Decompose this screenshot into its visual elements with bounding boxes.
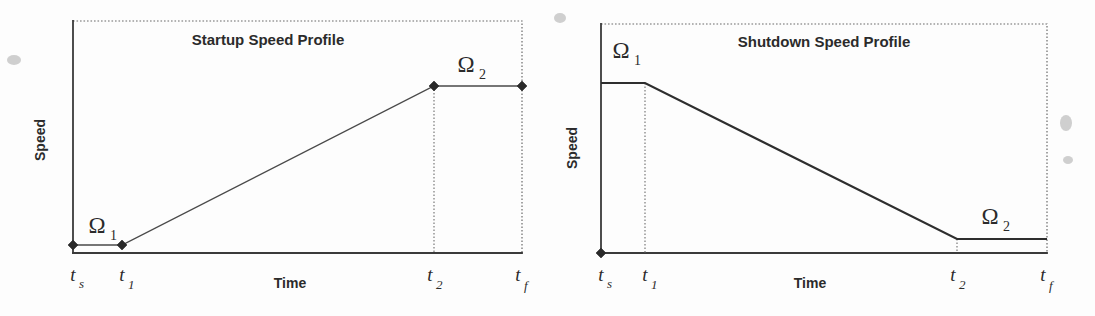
- scan-artifacts: [7, 13, 1073, 164]
- shutdown-omega1-base: Ω: [612, 38, 629, 63]
- startup-y-axis-label: Speed: [32, 119, 48, 161]
- shutdown-y-axis-label: Speed: [564, 127, 580, 169]
- shutdown-omega1-sub: 1: [634, 53, 641, 68]
- shutdown-omega2-base: Ω: [981, 204, 998, 229]
- shutdown-xtick-t2: t 2: [950, 264, 966, 292]
- startup-omega1-annotation: Ω 1: [88, 213, 117, 243]
- chart-startup: Startup Speed Profile Speed Time Ω 1 Ω 2…: [32, 21, 530, 293]
- speed-profile-figure: Startup Speed Profile Speed Time Ω 1 Ω 2…: [0, 0, 1095, 316]
- startup-xtick-t2-base: t: [427, 264, 433, 285]
- shutdown-profile-line: [601, 83, 1047, 239]
- shutdown-xtick-t1: t 1: [642, 264, 657, 292]
- shutdown-xtick-ts: t s: [598, 264, 612, 291]
- startup-xtick-tf-base: t: [515, 264, 521, 285]
- shutdown-x-axis-label: Time: [794, 275, 827, 291]
- startup-omega2-base: Ω: [457, 52, 474, 77]
- speed-profile-svg: Startup Speed Profile Speed Time Ω 1 Ω 2…: [0, 0, 1095, 316]
- startup-xtick-tf: t f: [515, 264, 530, 293]
- startup-xtick-ts-sub: s: [79, 276, 84, 291]
- startup-marker-tf: [517, 81, 527, 91]
- startup-marker-ts: [68, 240, 78, 250]
- startup-xtick-t1-base: t: [119, 264, 125, 285]
- startup-xtick-ts: t s: [70, 264, 84, 291]
- startup-xtick-t1: t 1: [119, 264, 134, 292]
- startup-dotted-frame: [73, 21, 522, 253]
- startup-chart-title: Startup Speed Profile: [192, 31, 345, 48]
- shutdown-chart-title: Shutdown Speed Profile: [738, 33, 911, 50]
- startup-marker-t1: [117, 240, 127, 250]
- shutdown-xtick-ts-sub: s: [607, 276, 612, 291]
- shutdown-dotted-frame: [601, 24, 1047, 253]
- shutdown-xtick-tf: t f: [1040, 264, 1055, 293]
- startup-x-axis-label: Time: [274, 275, 307, 291]
- shutdown-omega1-annotation: Ω 1: [612, 38, 641, 68]
- startup-marker-t2: [429, 81, 439, 91]
- shutdown-marker-ts: [596, 248, 606, 258]
- shutdown-omega2-annotation: Ω 2: [981, 204, 1010, 234]
- startup-profile-line: [73, 86, 522, 245]
- shutdown-xtick-t1-base: t: [642, 264, 648, 285]
- shutdown-xtick-tf-base: t: [1040, 264, 1046, 285]
- startup-omega1-sub: 1: [110, 228, 117, 243]
- chart-shutdown: Shutdown Speed Profile Speed Time Ω 1 Ω …: [564, 24, 1055, 293]
- startup-omega2-sub: 2: [479, 67, 486, 82]
- startup-xtick-ts-base: t: [70, 264, 76, 285]
- shutdown-xtick-t2-sub: 2: [959, 277, 966, 292]
- startup-omega1-base: Ω: [88, 213, 105, 238]
- startup-omega2-annotation: Ω 2: [457, 52, 486, 82]
- shutdown-omega2-sub: 2: [1003, 219, 1010, 234]
- shutdown-xtick-tf-sub: f: [1049, 278, 1055, 293]
- shutdown-xtick-ts-base: t: [598, 264, 604, 285]
- startup-xtick-t1-sub: 1: [128, 277, 135, 292]
- shutdown-xtick-t1-sub: 1: [651, 277, 658, 292]
- startup-xtick-tf-sub: f: [524, 278, 530, 293]
- shutdown-xtick-t2-base: t: [950, 264, 956, 285]
- startup-xtick-t2-sub: 2: [436, 277, 443, 292]
- startup-xtick-t2: t 2: [427, 264, 443, 292]
